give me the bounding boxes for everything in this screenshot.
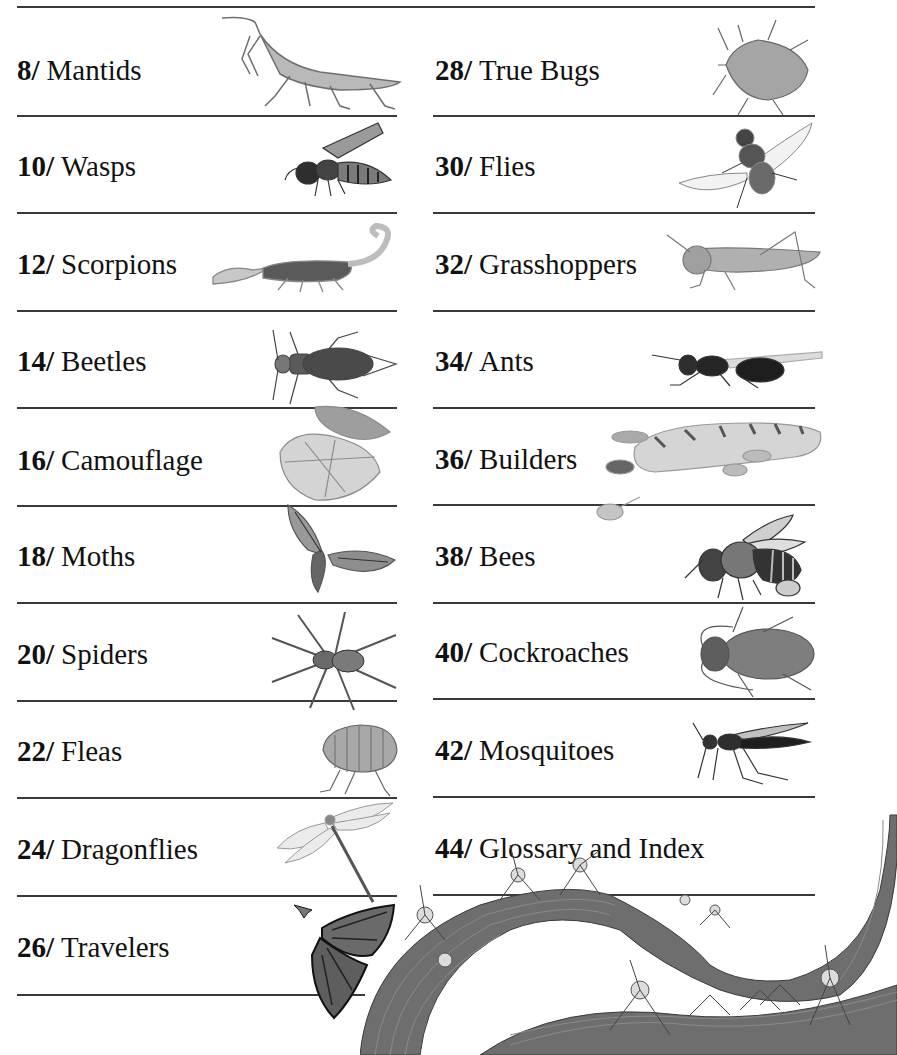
page-number: 40 xyxy=(435,636,464,669)
entry-title: Spiders xyxy=(61,638,148,671)
toc-entry-moths[interactable]: 18/Moths xyxy=(17,536,135,576)
right-rule xyxy=(433,796,815,798)
separator: / xyxy=(46,735,54,768)
right-rule xyxy=(433,407,815,409)
entry-title: Builders xyxy=(479,443,577,476)
left-rule xyxy=(17,212,397,214)
page-number: 12 xyxy=(17,248,46,281)
page-number: 8 xyxy=(17,54,32,87)
separator: / xyxy=(464,248,472,281)
toc-entry-mosquitoes[interactable]: 42/Mosquitoes xyxy=(435,730,614,770)
separator: / xyxy=(464,636,472,669)
scorpion-illustration xyxy=(208,222,400,292)
separator: / xyxy=(46,931,54,964)
top-rule xyxy=(17,6,815,8)
separator: / xyxy=(464,54,472,87)
entry-title: Flies xyxy=(479,150,535,183)
entry-title: Fleas xyxy=(61,735,122,768)
moth-illustration xyxy=(283,500,398,595)
entry-title: Camouflage xyxy=(61,444,203,477)
entry-title: Moths xyxy=(61,540,135,573)
page-number: 14 xyxy=(17,345,46,378)
entry-title: Grasshoppers xyxy=(479,248,637,281)
page-number: 24 xyxy=(17,833,46,866)
toc-entry-beetles[interactable]: 14/Beetles xyxy=(17,341,146,381)
toc-entry-bees[interactable]: 38/Bees xyxy=(435,536,535,576)
entry-title: Beetles xyxy=(61,345,146,378)
left-rule xyxy=(17,115,397,117)
left-rule xyxy=(17,602,397,604)
toc-entry-travelers[interactable]: 26/Travelers xyxy=(17,927,170,967)
page-number: 18 xyxy=(17,540,46,573)
right-rule xyxy=(433,310,815,312)
separator: / xyxy=(464,443,472,476)
entry-title: Mantids xyxy=(47,54,142,87)
termite-queen-illustration xyxy=(595,412,823,524)
entry-title: Bees xyxy=(479,540,535,573)
entry-title: Cockroaches xyxy=(479,636,629,669)
toc-entry-flies[interactable]: 30/Flies xyxy=(435,146,535,186)
grasshopper-illustration xyxy=(665,230,823,298)
toc-entry-scorpions[interactable]: 12/Scorpions xyxy=(17,244,177,284)
right-rule xyxy=(433,115,815,117)
page-number: 36 xyxy=(435,443,464,476)
entry-title: Dragonflies xyxy=(61,833,198,866)
toc-entry-grasshoppers[interactable]: 32/Grasshoppers xyxy=(435,244,637,284)
page-number: 22 xyxy=(17,735,46,768)
page-number: 10 xyxy=(17,150,46,183)
separator: / xyxy=(32,54,40,87)
entry-title: Mosquitoes xyxy=(479,734,614,767)
entry-title: Ants xyxy=(479,345,534,378)
entry-title: Wasps xyxy=(61,150,136,183)
page-number: 28 xyxy=(435,54,464,87)
spider-illustration xyxy=(270,610,398,710)
separator: / xyxy=(46,833,54,866)
bee-illustration xyxy=(683,510,811,602)
mosquito-illustration xyxy=(688,718,813,786)
separator: / xyxy=(464,540,472,573)
separator: / xyxy=(46,540,54,573)
page-number: 26 xyxy=(17,931,46,964)
separator: / xyxy=(46,345,54,378)
page-number: 20 xyxy=(17,638,46,671)
toc-entry-true-bugs[interactable]: 28/True Bugs xyxy=(435,50,600,90)
mantis-illustration xyxy=(220,14,405,109)
toc-entry-dragonflies[interactable]: 24/Dragonflies xyxy=(17,829,198,869)
flea-illustration xyxy=(315,720,400,798)
separator: / xyxy=(46,150,54,183)
page-number: 34 xyxy=(435,345,464,378)
separator: / xyxy=(46,444,54,477)
toc-entry-spiders[interactable]: 20/Spiders xyxy=(17,634,148,674)
toc-entry-ants[interactable]: 34/Ants xyxy=(435,341,534,381)
entry-title: Travelers xyxy=(61,931,169,964)
toc-entry-wasps[interactable]: 10/Wasps xyxy=(17,146,136,186)
entry-title: Scorpions xyxy=(61,248,177,281)
left-rule xyxy=(17,310,397,312)
page-number: 38 xyxy=(435,540,464,573)
toc-entry-camouflage[interactable]: 16/Camouflage xyxy=(17,440,203,480)
cockroach-illustration xyxy=(693,602,818,702)
toc-entry-builders[interactable]: 36/Builders xyxy=(435,439,577,479)
army-ants-vine-illustration xyxy=(360,800,897,1055)
right-rule xyxy=(433,212,815,214)
page-number: 42 xyxy=(435,734,464,767)
separator: / xyxy=(464,150,472,183)
entry-title: True Bugs xyxy=(479,54,600,87)
leaf-insect-illustration xyxy=(275,402,397,504)
page-number: 30 xyxy=(435,150,464,183)
page-number: 32 xyxy=(435,248,464,281)
fly-illustration xyxy=(677,118,817,210)
toc-entry-cockroaches[interactable]: 40/Cockroaches xyxy=(435,632,629,672)
separator: / xyxy=(464,734,472,767)
separator: / xyxy=(46,638,54,671)
toc-entry-fleas[interactable]: 22/Fleas xyxy=(17,731,122,771)
wasp-illustration xyxy=(283,118,393,198)
stink-bug-illustration xyxy=(708,20,813,115)
beetle-illustration xyxy=(268,320,398,406)
toc-entry-mantids[interactable]: 8/Mantids xyxy=(17,50,142,90)
separator: / xyxy=(464,345,472,378)
winged-ant-illustration xyxy=(650,340,825,390)
separator: / xyxy=(46,248,54,281)
page-number: 16 xyxy=(17,444,46,477)
